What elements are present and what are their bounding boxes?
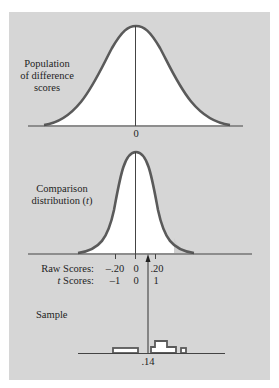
population-zero-label: 0 <box>128 128 144 140</box>
population-label-line1: Population <box>14 58 80 70</box>
population-label-line3: scores <box>14 82 80 94</box>
t-tick-minus: –1 <box>104 275 126 287</box>
t-tick-zero: 0 <box>128 275 144 287</box>
sample-histogram <box>78 341 225 354</box>
population-label: Population of difference scores <box>14 58 80 94</box>
comparison-label: Comparison distribution (t) <box>22 183 102 207</box>
comparison-label-line1: Comparison <box>22 183 102 195</box>
population-label-line2: of difference <box>14 70 80 82</box>
t-scores-label: t Scores: <box>20 275 94 287</box>
t-tick-plus: 1 <box>148 275 164 287</box>
raw-scores-label: Raw Scores: <box>20 263 94 275</box>
sample-mean-label: .14 <box>138 356 158 368</box>
raw-tick-zero: 0 <box>128 263 144 275</box>
comparison-label-line2: distribution (t) <box>22 195 102 207</box>
sample-label: Sample <box>36 309 68 321</box>
raw-tick-minus: –.20 <box>102 263 128 275</box>
raw-tick-plus: .20 <box>146 263 168 275</box>
